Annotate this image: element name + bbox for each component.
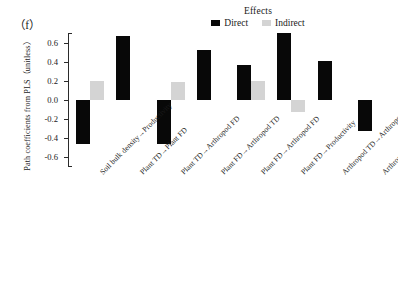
- legend-entry-direct[interactable]: Direct: [211, 18, 248, 28]
- bar-direct[interactable]: [76, 100, 90, 144]
- legend-items: Direct Indirect: [178, 18, 338, 28]
- legend-swatch-indirect: [262, 20, 271, 26]
- x-axis-tick-labels: Soil bulk density→ProductivityPlant TD→P…: [68, 170, 390, 282]
- legend-label-direct: Direct: [224, 18, 248, 28]
- y-tick: [64, 62, 69, 63]
- y-tick-label: 0.0: [47, 95, 58, 105]
- y-tick: [64, 138, 69, 139]
- y-axis-title: Path coefficients from PLS（unitless）: [20, 24, 32, 184]
- figure-panel-f: （f） Effects Direct Indirect Path coeffic…: [0, 0, 398, 284]
- legend-entry-indirect[interactable]: Indirect: [262, 18, 305, 28]
- bar-direct[interactable]: [277, 33, 291, 100]
- bar-direct[interactable]: [318, 61, 332, 100]
- y-tick: [64, 119, 69, 120]
- legend-label-indirect: Indirect: [275, 18, 305, 28]
- bar-indirect[interactable]: [291, 100, 305, 112]
- y-tick-label: 0.6: [47, 38, 58, 48]
- legend: Effects Direct Indirect: [178, 6, 338, 28]
- x-tick-label: Plant FD→Arthropod FD: [259, 170, 265, 176]
- bar-indirect[interactable]: [90, 81, 104, 100]
- y-tick-label: 0.4: [47, 57, 58, 67]
- x-tick-label: Arthropod TD→Productivity: [380, 170, 386, 176]
- bar-indirect[interactable]: [251, 81, 265, 100]
- legend-title: Effects: [178, 6, 338, 16]
- y-tick: [64, 100, 69, 101]
- x-tick-label: Plant FD→Arthropod TD: [219, 170, 225, 176]
- x-tick-label: Plant TD→Plant FD: [138, 170, 144, 176]
- bar-direct[interactable]: [197, 50, 211, 100]
- y-tick-label: -0.6: [44, 152, 58, 162]
- y-axis-cap-bottom: [68, 166, 72, 167]
- y-tick: [64, 157, 69, 158]
- y-tick: [64, 43, 69, 44]
- bar-direct[interactable]: [237, 65, 251, 100]
- x-tick-label: Plant TD→Arthropod FD: [179, 170, 185, 176]
- y-tick-label: -0.4: [44, 133, 58, 143]
- plot-area: 0.60.40.20.0-0.2-0.4-0.6: [68, 33, 390, 167]
- y-tick-label: -0.2: [44, 114, 58, 124]
- legend-swatch-direct: [211, 20, 220, 26]
- x-tick-label: Soil bulk density→Productivity: [98, 170, 104, 176]
- bar-indirect[interactable]: [171, 82, 185, 100]
- y-tick: [64, 81, 69, 82]
- bar-direct[interactable]: [358, 100, 372, 131]
- y-axis-cap-top: [68, 33, 72, 34]
- bar-direct[interactable]: [116, 36, 130, 100]
- y-tick-label: 0.2: [47, 76, 58, 86]
- x-tick-label: Plant FD→Productivity: [299, 170, 305, 176]
- x-tick-label: Arthropod TD→Arthropod FD: [340, 170, 346, 176]
